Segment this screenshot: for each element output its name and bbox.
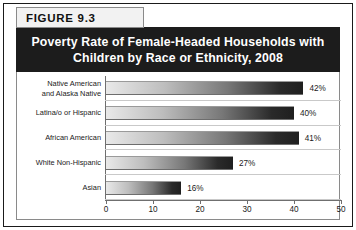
- x-axis-tick-label: 30: [242, 205, 251, 214]
- bar: [106, 106, 294, 120]
- bar-row: Native American and Alaska Native42%: [17, 76, 341, 101]
- bar: [106, 156, 233, 170]
- category-label: Native American and Alaska Native: [0, 79, 101, 97]
- bar: [106, 131, 299, 145]
- figure-container: FIGURE 9.3 Poverty Rate of Female-Headed…: [0, 0, 356, 230]
- figure-title-line-2: Children by Race or Ethnicity, 2008: [73, 50, 283, 66]
- x-axis-tick-label: 20: [195, 205, 204, 214]
- x-axis: 01020304050: [17, 200, 341, 220]
- x-axis-tick: [106, 200, 107, 204]
- bar-row: Asian16%: [17, 175, 341, 200]
- x-axis-tick: [247, 200, 248, 204]
- figure-title-line-1: Poverty Rate of Female-Headed Households…: [31, 34, 324, 50]
- bar: [106, 81, 303, 95]
- category-label: African American: [0, 133, 101, 142]
- bar-value-label: 16%: [187, 183, 203, 192]
- x-axis-tick: [153, 200, 154, 204]
- plot-area: Native American and Alaska Native42%Lati…: [17, 72, 341, 220]
- figure-title-banner: Poverty Rate of Female-Headed Households…: [16, 27, 340, 72]
- x-axis-tick-label: 50: [336, 205, 345, 214]
- bar-value-label: 40%: [300, 109, 316, 118]
- x-axis-tick: [200, 200, 201, 204]
- bar: [106, 181, 181, 195]
- bar-value-label: 41%: [305, 133, 321, 142]
- category-label: Asian: [0, 183, 101, 192]
- bar-value-label: 42%: [309, 84, 325, 93]
- chart-panel: Native American and Alaska Native42%Lati…: [16, 72, 340, 220]
- x-axis-tick-label: 0: [104, 205, 109, 214]
- figure-number-tab: FIGURE 9.3: [16, 7, 144, 28]
- bar-rows: Native American and Alaska Native42%Lati…: [17, 76, 341, 200]
- bar-row: African American41%: [17, 126, 341, 151]
- bar-row: Latina/o or Hispanic40%: [17, 101, 341, 126]
- bar-row: White Non-Hispanic27%: [17, 150, 341, 175]
- x-axis-tick-label: 10: [148, 205, 157, 214]
- bar-value-label: 27%: [239, 158, 255, 167]
- category-label: White Non-Hispanic: [0, 158, 101, 167]
- x-axis-tick-label: 40: [289, 205, 298, 214]
- x-axis-tick: [294, 200, 295, 204]
- figure-number-label: FIGURE 9.3: [26, 12, 96, 24]
- x-axis-tick: [341, 200, 342, 204]
- category-label: Latina/o or Hispanic: [0, 109, 101, 118]
